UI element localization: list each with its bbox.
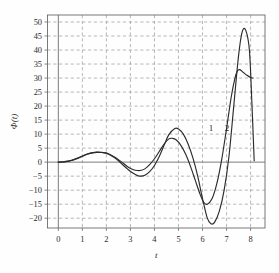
x-tick-label: 3 [128, 235, 132, 244]
y-tick-label: 35 [34, 60, 42, 69]
x-tick-label: 4 [152, 235, 157, 244]
y-tick-label: 40 [34, 46, 42, 55]
x-tick-label: 5 [176, 235, 180, 244]
y-tick-label: −5 [33, 172, 42, 181]
x-tick-label: 8 [248, 235, 252, 244]
y-tick-label: 10 [34, 130, 42, 139]
figure-container: 012345678−20−15−10−505101520253035404550… [0, 0, 279, 273]
y-axis-title: Φ(t) [9, 114, 19, 129]
tick-marks [45, 22, 251, 231]
x-tick-label: 0 [56, 235, 60, 244]
y-tick-label: 15 [34, 116, 42, 125]
x-tick-label: 6 [200, 235, 204, 244]
y-tick-label: −20 [29, 214, 42, 223]
y-tick-label: −15 [29, 200, 42, 209]
y-tick-label: 45 [34, 32, 42, 41]
x-tick-label: 7 [224, 235, 228, 244]
x-tick-label: 2 [104, 235, 108, 244]
y-tick-label: 25 [34, 88, 42, 97]
y-tick-label: 20 [34, 102, 42, 111]
y-tick-label: 30 [34, 74, 42, 83]
tick-labels: 012345678−20−15−10−505101520253035404550 [29, 18, 253, 243]
x-tick-label: 1 [80, 235, 84, 244]
x-axis-title: t [155, 250, 158, 260]
curve-annotations: 12 [209, 123, 230, 133]
y-tick-label: 0 [38, 158, 42, 167]
chart-plot: 012345678−20−15−10−505101520253035404550… [0, 0, 279, 273]
curve-label-1: 1 [209, 123, 214, 133]
y-tick-label: 50 [34, 18, 42, 27]
y-tick-label: 5 [38, 144, 42, 153]
data-curve-1 [58, 70, 253, 205]
curve-label-2: 2 [225, 123, 230, 133]
y-tick-label: −10 [29, 186, 42, 195]
